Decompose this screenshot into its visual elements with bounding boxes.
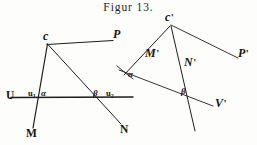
line-c-to-p (47, 41, 113, 45)
label-m-prime-base: M (145, 46, 156, 60)
label-beta-left: β (93, 89, 98, 98)
label-u-baseline: U (6, 90, 14, 102)
label-u1: u1 (28, 89, 36, 98)
label-n-prime: N' (184, 56, 196, 68)
label-n: N (120, 124, 128, 136)
label-beta-right: β (181, 87, 186, 96)
label-u2: u2 (106, 89, 114, 98)
line-c-to-m (33, 44, 48, 128)
line-alpha-to-vprime (119, 70, 213, 106)
label-v-prime: V' (215, 97, 227, 109)
label-n-prime-base: N (184, 55, 193, 69)
label-c: c (43, 30, 48, 42)
label-p: P (113, 28, 120, 40)
label-n-prime-mark: ' (193, 56, 197, 68)
label-u2-subscript: 2 (111, 93, 114, 99)
label-p-prime: P' (238, 47, 249, 59)
label-c-prime-mark: ' (170, 11, 174, 23)
label-m-prime-mark: ' (156, 47, 160, 59)
label-v-prime-base: V (215, 96, 223, 110)
label-p-prime-mark: ' (245, 47, 249, 59)
label-v-prime-mark: ' (223, 97, 227, 109)
label-m-prime: M' (145, 47, 159, 59)
label-c-prime: c' (165, 11, 174, 23)
line-c-to-n (48, 44, 122, 124)
line-cprime-to-pprime (171, 25, 238, 58)
figure-container: Figur 13. U c P M (0, 0, 257, 145)
line-cprime-to-nprime (171, 26, 195, 131)
label-alpha-right: α (128, 70, 133, 79)
label-alpha-left: α (41, 89, 46, 98)
label-u1-subscript: 1 (33, 93, 36, 99)
label-m: M (26, 128, 37, 140)
